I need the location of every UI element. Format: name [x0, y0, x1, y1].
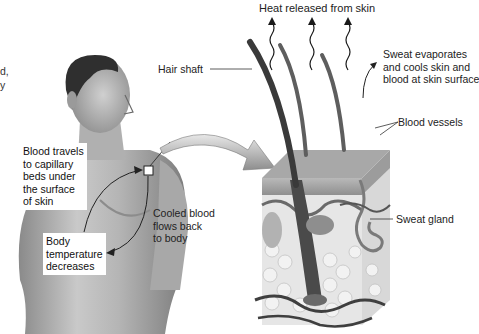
cut-off-text-1: d,: [0, 65, 9, 78]
blood-travels-line-2: to capillary: [23, 158, 84, 171]
blood-travels-line-3: beds under: [23, 170, 84, 183]
sweat-evaporates-line-1: Sweat evaporates: [383, 48, 479, 61]
blood-vessels-label: Blood vessels: [398, 116, 463, 129]
blood-travels-line-5: of skin: [23, 195, 84, 208]
capillary-marker: [144, 166, 153, 175]
body-temperature-line-3: decreases: [46, 260, 103, 273]
cooled-blood-line-3: to body: [153, 232, 215, 245]
hair-shaft-label: Hair shaft: [158, 63, 203, 76]
sweat-evaporates-label: Sweat evaporates and cools skin and bloo…: [383, 48, 479, 86]
cooled-blood-line-2: flows back: [153, 220, 215, 233]
sweat-gland-label: Sweat gland: [396, 213, 454, 226]
blood-travels-box: Blood travels to capillary beds under th…: [20, 143, 87, 210]
cooled-blood-line-1: Cooled blood: [153, 207, 215, 220]
blood-travels-line-4: the surface: [23, 183, 84, 196]
zoom-arrow: [160, 134, 275, 170]
cut-off-text-2: y: [0, 79, 5, 92]
leader-blood-vessels-1: [375, 122, 398, 128]
heat-released-label: Heat released from skin: [259, 2, 375, 15]
body-temperature-line-1: Body: [46, 235, 103, 248]
cooled-blood-label: Cooled blood flows back to body: [153, 207, 215, 245]
skin-cross-section: [255, 150, 390, 326]
blood-travels-line-1: Blood travels: [23, 145, 84, 158]
sweat-evaporates-line-3: blood at skin surface: [383, 73, 479, 86]
leader-sweat-evaporates: [363, 65, 374, 98]
sweat-evaporates-line-2: and cools skin and: [383, 61, 479, 74]
body-temperature-box: Body temperature decreases: [43, 233, 106, 275]
body-temperature-line-2: temperature: [46, 248, 103, 261]
